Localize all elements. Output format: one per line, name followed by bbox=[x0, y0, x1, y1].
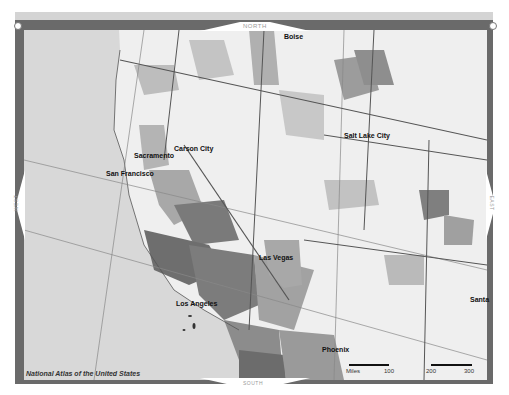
scale-tick-300: 300 bbox=[464, 368, 474, 374]
scale-tick-100: 100 bbox=[384, 368, 394, 374]
city-label-sacramento: Sacramento bbox=[134, 152, 174, 159]
scale-tick-200: 200 bbox=[426, 368, 436, 374]
west-label: WEST bbox=[13, 195, 19, 211]
north-label: NORTH bbox=[243, 23, 267, 29]
city-label-carson-city: Carson City bbox=[174, 145, 213, 152]
city-label-salt-lake-city: Salt Lake City bbox=[344, 132, 390, 139]
scale-unit-label: Miles bbox=[346, 368, 360, 374]
east-label: EAST bbox=[489, 195, 495, 210]
city-label-phoenix: Phoenix bbox=[322, 346, 349, 353]
city-label-los-angeles: Los Angeles bbox=[176, 300, 217, 307]
scale-bar-segment bbox=[349, 364, 389, 366]
map-credit: National Atlas of the United States bbox=[26, 370, 140, 377]
city-label-las-vegas: Las Vegas bbox=[259, 254, 293, 261]
corner-marker bbox=[14, 22, 22, 30]
map-graphic bbox=[24, 30, 487, 380]
city-label-san-francisco: San Francisco bbox=[106, 170, 154, 177]
city-label-santa: Santa bbox=[470, 296, 489, 303]
south-label: SOUTH bbox=[243, 380, 263, 386]
scale-bar-segment bbox=[431, 364, 472, 366]
map-canvas[interactable] bbox=[24, 30, 487, 380]
city-label-boise: Boise bbox=[284, 33, 303, 40]
corner-marker bbox=[489, 22, 497, 30]
